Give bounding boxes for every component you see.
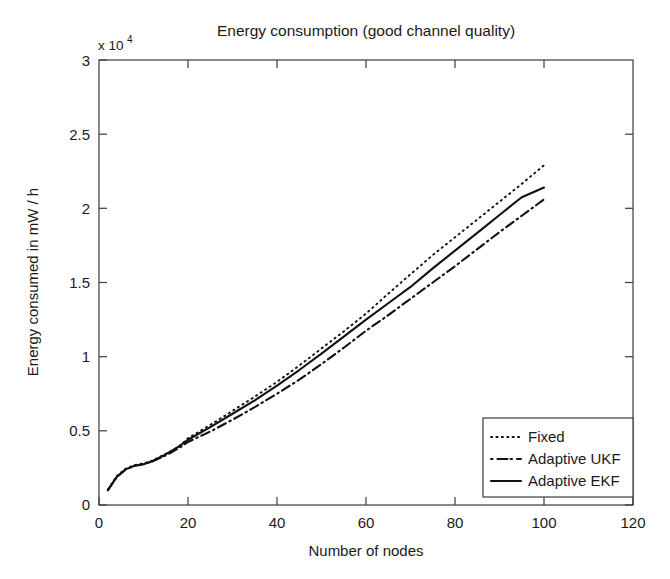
legend-label-fixed[interactable]: Fixed	[528, 428, 565, 445]
x-tick-label-2: 40	[269, 514, 286, 531]
x-tick-label-5: 100	[531, 514, 556, 531]
y-tick-label-1: 0.5	[69, 422, 90, 439]
x-tick-label-3: 60	[358, 514, 375, 531]
y-multiplier-exponent: 4	[127, 34, 133, 45]
chart-title: Energy consumption (good channel quality…	[217, 22, 515, 39]
y-axis-label: Energy consumed in mW / h	[24, 188, 41, 376]
x-tick-label-0: 0	[95, 514, 103, 531]
energy-consumption-line-chart: Energy consumption (good channel quality…	[0, 0, 670, 579]
y-tick-label-6: 3	[82, 52, 90, 69]
x-tick-label-1: 20	[180, 514, 197, 531]
y-tick-label-3: 1.5	[69, 274, 90, 291]
y-tick-label-2: 1	[82, 348, 90, 365]
legend-label-adaptive-ekf[interactable]: Adaptive EKF	[528, 472, 620, 489]
legend-label-adaptive-ukf[interactable]: Adaptive UKF	[528, 450, 621, 467]
chart-figure: Energy consumption (good channel quality…	[0, 0, 670, 579]
x-tick-label-4: 80	[447, 514, 464, 531]
x-axis-label: Number of nodes	[308, 542, 423, 559]
y-tick-label-4: 2	[82, 200, 90, 217]
chart-legend[interactable]: Fixed Adaptive UKF Adaptive EKF	[483, 418, 633, 497]
y-tick-label-0: 0	[82, 496, 90, 513]
y-multiplier-base: x 10	[98, 38, 124, 53]
y-tick-label-5: 2.5	[69, 126, 90, 143]
x-tick-label-6: 120	[620, 514, 645, 531]
